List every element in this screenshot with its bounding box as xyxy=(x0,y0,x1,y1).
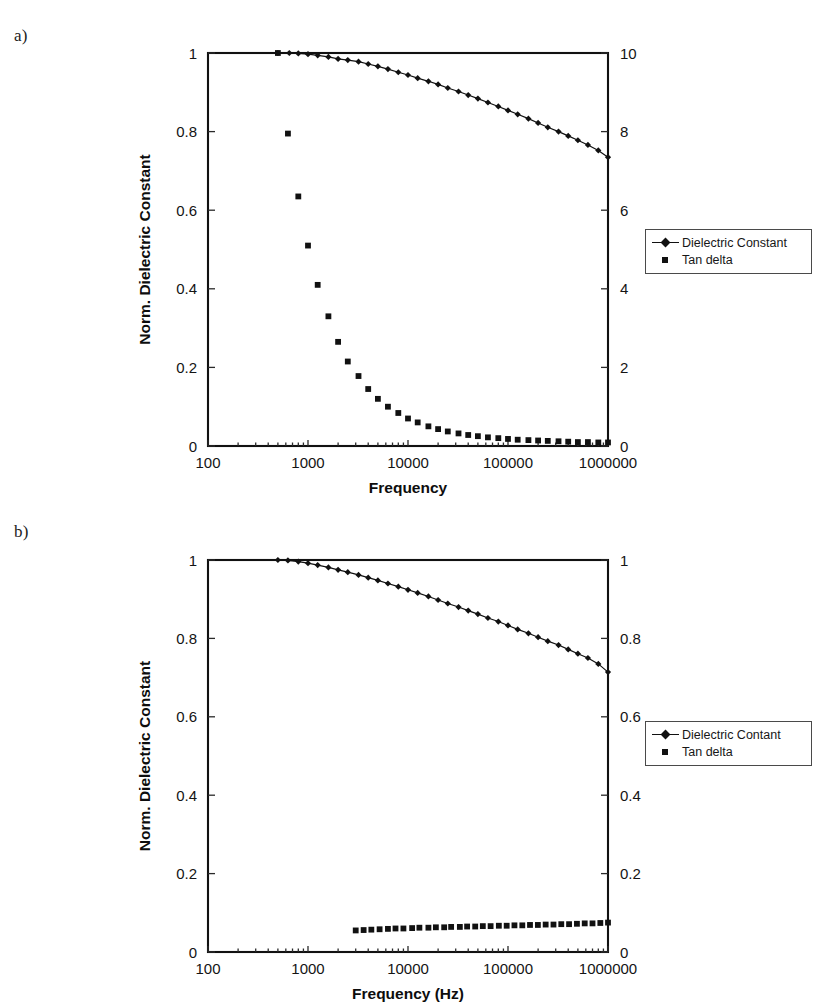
data-point xyxy=(545,638,551,644)
data-point xyxy=(595,440,601,446)
x-tick-label: 100 xyxy=(195,454,220,471)
data-point xyxy=(425,593,431,599)
data-point xyxy=(445,429,451,435)
data-point xyxy=(275,50,281,56)
data-point xyxy=(375,63,381,69)
data-point xyxy=(353,928,359,934)
data-point xyxy=(456,431,462,437)
data-point xyxy=(455,604,461,610)
x-tick-label: 1000000 xyxy=(579,454,637,471)
data-point xyxy=(505,622,511,628)
data-point xyxy=(472,924,478,930)
data-point xyxy=(409,925,415,931)
y-left-tick-label: 0.4 xyxy=(176,787,197,804)
data-point xyxy=(405,72,411,78)
y-axis-title: Norm. Dielectric Constant xyxy=(136,154,153,344)
data-point xyxy=(315,282,321,288)
legend-item-tan-delta: Tan delta xyxy=(650,251,806,268)
data-point xyxy=(305,243,311,249)
x-tick-label: 1000000 xyxy=(579,960,637,977)
data-point xyxy=(545,124,551,130)
data-point xyxy=(525,630,531,636)
y-left-tick-label: 0.8 xyxy=(176,630,197,647)
data-point xyxy=(526,437,532,443)
data-point xyxy=(286,50,292,56)
data-point xyxy=(365,61,371,67)
legend-label-tan-delta: Tan delta xyxy=(682,745,733,759)
data-point xyxy=(515,437,521,443)
y-left-tick-label: 0 xyxy=(189,438,197,455)
series-line-dielectric-constant xyxy=(278,53,608,157)
data-point xyxy=(295,50,301,56)
legend-item-dielectric-contant: Dielectric Contant xyxy=(650,726,806,743)
data-point xyxy=(585,655,591,661)
y-left-tick-label: 1 xyxy=(189,552,197,569)
x-tick-label: 100000 xyxy=(483,960,533,977)
x-tick-label: 1000 xyxy=(291,960,324,977)
data-point xyxy=(556,438,562,444)
x-tick-label: 100000 xyxy=(483,454,533,471)
data-point xyxy=(416,925,422,931)
data-point xyxy=(565,133,571,139)
data-point xyxy=(445,600,451,606)
legend-label-tan-delta: Tan delta xyxy=(682,253,733,267)
data-point xyxy=(395,584,401,590)
data-point xyxy=(365,386,371,392)
y-left-tick-label: 0.8 xyxy=(176,123,197,140)
data-point xyxy=(415,590,421,596)
y-right-tick-label: 4 xyxy=(620,280,628,297)
data-point xyxy=(435,81,441,87)
data-point xyxy=(457,924,463,930)
square-icon xyxy=(650,253,680,267)
figure-root: a) 100100010000100000100000000.20.40.60.… xyxy=(0,0,819,1006)
data-point xyxy=(585,439,591,445)
data-point xyxy=(465,432,471,438)
panel-b: b) 100100010000100000100000000.20.40.60.… xyxy=(0,506,819,1006)
data-point xyxy=(485,434,491,440)
data-point xyxy=(566,921,572,927)
diamond-line-icon xyxy=(650,236,680,250)
data-point xyxy=(401,926,407,932)
data-point xyxy=(475,433,481,439)
data-point xyxy=(355,59,361,65)
data-point xyxy=(519,922,525,928)
data-point xyxy=(455,88,461,94)
data-point xyxy=(335,339,341,345)
data-point xyxy=(495,618,501,624)
x-tick-label: 100 xyxy=(195,960,220,977)
data-point xyxy=(377,926,383,932)
legend-label-dielectric-constant: Dielectric Constant xyxy=(682,236,787,250)
plot-frame xyxy=(208,560,608,952)
data-point xyxy=(395,410,401,416)
data-point xyxy=(465,92,471,98)
data-point xyxy=(433,924,439,930)
y-left-tick-label: 0.2 xyxy=(176,359,197,376)
data-point xyxy=(590,920,596,926)
data-point xyxy=(325,54,331,60)
data-point xyxy=(405,416,411,422)
data-point xyxy=(575,137,581,143)
y-right-tick-label: 0.8 xyxy=(620,630,641,647)
data-point xyxy=(565,646,571,652)
y-right-tick-label: 10 xyxy=(620,45,637,62)
data-point xyxy=(441,924,447,930)
data-point xyxy=(335,56,341,62)
data-point xyxy=(505,436,511,442)
y-right-tick-label: 6 xyxy=(620,202,628,219)
data-point xyxy=(415,420,421,426)
y-axis-title: Norm. Dielectric Constant xyxy=(136,661,153,851)
data-point xyxy=(582,920,588,926)
data-point xyxy=(295,194,301,200)
x-axis-title: Frequency (Hz) xyxy=(352,985,464,1002)
data-point xyxy=(535,120,541,126)
panel-a-legend: Dielectric Constant Tan delta xyxy=(645,229,812,274)
y-right-tick-label: 8 xyxy=(620,123,628,140)
data-point xyxy=(448,924,454,930)
data-point xyxy=(551,922,557,928)
data-point xyxy=(555,129,561,135)
data-point xyxy=(475,611,481,617)
data-point xyxy=(565,439,571,445)
data-point xyxy=(480,923,486,929)
data-point xyxy=(393,926,399,932)
data-point xyxy=(555,642,561,648)
